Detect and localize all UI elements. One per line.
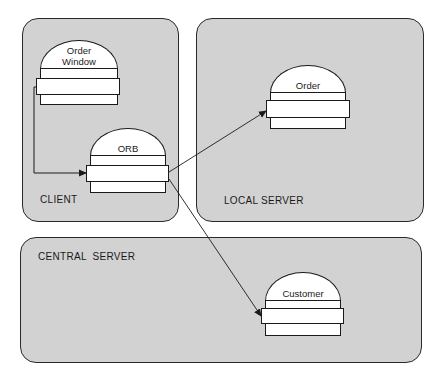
orb-lower-band [90, 181, 166, 193]
customer-interface-band [261, 308, 344, 324]
order-window-lower-band [40, 94, 118, 105]
order-lower-band [270, 117, 346, 129]
customer-lower-band [265, 323, 341, 336]
central-server-label: CENTRAL SERVER [38, 251, 135, 263]
order-label: Order [296, 80, 320, 91]
order-window-label-line1: Order [67, 45, 91, 56]
client-label: CLIENT [40, 194, 77, 206]
orb-label: ORB [118, 143, 139, 154]
orb-interface-band [86, 165, 169, 182]
local-server-label: LOCAL SERVER [224, 195, 304, 207]
order-window-interface-band [36, 78, 120, 95]
order-interface-band [266, 100, 350, 118]
order-window-label-line2: Window [62, 56, 96, 67]
customer-label: Customer [282, 288, 323, 299]
